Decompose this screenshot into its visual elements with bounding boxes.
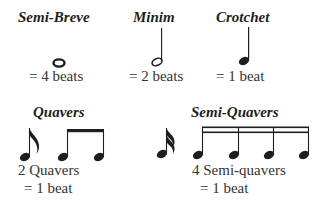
beamed-quavers-icon <box>56 129 105 163</box>
semiquaver-note-icon <box>156 128 175 160</box>
minim-note-icon <box>151 28 163 67</box>
semibreve-note-icon <box>54 59 65 66</box>
beamed-semiquavers-icon <box>192 127 311 161</box>
crotchet-note-icon <box>238 27 251 67</box>
notation-symbols <box>0 0 327 213</box>
quaver-note-icon <box>18 128 39 163</box>
